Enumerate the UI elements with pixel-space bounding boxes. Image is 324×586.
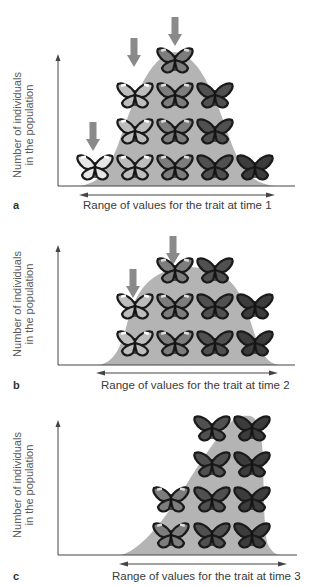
- x-axis-label: Range of values for the trait at time 3: [112, 570, 301, 582]
- range-arrow-left-head: [119, 562, 128, 567]
- panel-c-graphic: [0, 0, 324, 586]
- range-arrow-right-head: [278, 562, 287, 567]
- y-axis-arrowhead: [56, 420, 61, 427]
- y-axis-label: Number of individuals in the population: [11, 425, 37, 545]
- y-axis-label-line1: Number of individuals: [11, 425, 23, 545]
- y-axis-label-line2: in the population: [23, 425, 35, 545]
- panel-letter: c: [13, 570, 19, 582]
- panel-c: Number of individuals in the population …: [0, 0, 324, 586]
